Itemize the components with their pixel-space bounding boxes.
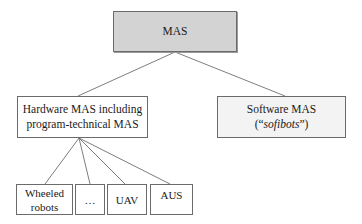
node-software-mas: Software MAS (“sofibots”) xyxy=(217,96,346,138)
mas-hierarchy-diagram: MAS Hardware MAS including program-techn… xyxy=(0,0,362,224)
leaf-label-line1: Wheeled xyxy=(25,186,64,200)
edge-hardware-to-wheeled xyxy=(45,138,79,184)
node-hardware-line2: program-technical MAS xyxy=(26,117,138,132)
node-hardware-line1: Hardware MAS including xyxy=(23,102,142,117)
edge-mas-to-hardware xyxy=(78,52,175,96)
leaf-label-line1: UAV xyxy=(116,193,138,207)
quote-close: ”) xyxy=(299,118,308,130)
edge-mas-to-software xyxy=(175,52,285,96)
node-hardware-mas: Hardware MAS including program-technical… xyxy=(17,96,148,138)
node-wheeled-robots: Wheeled robots xyxy=(16,184,73,215)
node-ellipsis: … xyxy=(75,184,105,215)
node-software-line1: Software MAS xyxy=(247,102,316,117)
leaf-label-line2: robots xyxy=(31,200,59,214)
leaf-label-line1: … xyxy=(85,193,96,207)
edge-hardware-to-ellipsis xyxy=(79,138,90,184)
quote-open: (“ xyxy=(255,118,264,130)
leaf-label-line1: AUS xyxy=(160,188,182,202)
node-mas-root: MAS xyxy=(113,11,237,52)
node-software-line2: (“sofibots”) xyxy=(255,117,309,132)
node-uav: UAV xyxy=(107,184,147,215)
node-mas-label: MAS xyxy=(163,24,188,39)
edge-hardware-to-aus xyxy=(79,138,170,184)
node-aus: AUS xyxy=(150,184,193,215)
edge-hardware-to-uav xyxy=(79,138,125,184)
sofibots-label: sofibots xyxy=(264,118,300,130)
